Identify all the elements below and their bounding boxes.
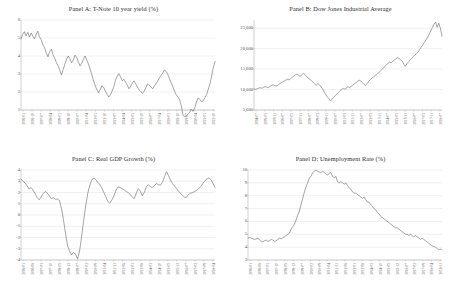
panel-b-plot-area — [254, 20, 442, 110]
x-tick-label: 2007-07 — [41, 113, 45, 125]
panel-b-y-axis-labels: 25,00020,00015,00010,0005,000 — [227, 20, 253, 110]
x-tick-label: 2006-01 — [23, 113, 27, 125]
x-tick-label: 2013-01 — [354, 263, 358, 275]
x-tick-label: 2006-07 — [282, 113, 286, 125]
x-tick-label: 2015-01 — [132, 113, 136, 125]
x-tick-label: 2006-01 — [250, 263, 254, 275]
panel-a-plot-area — [21, 20, 215, 110]
panel-c-plot-area — [21, 170, 215, 260]
x-tick-label: 2013-11 — [379, 113, 383, 125]
x-tick-label: 2009-07 — [302, 263, 306, 275]
four-panel-figure: Panel A: T-Note 10 year yield (%) 654321… — [0, 0, 454, 300]
x-tick-label: 2010-09 — [319, 263, 323, 275]
x-tick-label: 2014-10 — [159, 263, 163, 275]
series-line-0 — [21, 172, 215, 259]
x-tick-label: 2012-01 — [95, 113, 99, 125]
x-tick-label: 2014-07 — [387, 113, 391, 125]
x-tick-label: 2009-01 — [59, 113, 63, 125]
x-tick-label: 2007-10 — [276, 263, 280, 275]
panel-a-chart — [21, 20, 215, 110]
x-tick-label: 2017-11 — [431, 113, 435, 125]
y-tick-label: 10,000 — [240, 87, 253, 92]
x-tick-label: 2007-10 — [50, 263, 54, 275]
x-tick-label: 2011-04 — [328, 263, 332, 275]
panel-c-y-axis-labels: 43210-1-2-3-4 — [0, 170, 20, 260]
x-tick-label: 2018-10 — [177, 113, 181, 125]
x-tick-label: 2007-11 — [300, 113, 304, 125]
panel-d-x-axis-labels: 2006-012006-082007-032007-102008-052008-… — [248, 262, 442, 296]
panel-c: Panel C: Real GDP Growth (%) 43210-1-2-3… — [0, 150, 227, 300]
x-tick-label: 2010-02 — [311, 263, 315, 275]
x-tick-label: 2009-03 — [317, 113, 321, 125]
x-tick-label: 2018-04 — [213, 263, 217, 275]
x-tick-label: 2008-12 — [293, 263, 297, 275]
x-tick-label: 2006-08 — [32, 263, 36, 275]
panel-a: Panel A: T-Note 10 year yield (%) 654321… — [0, 0, 227, 150]
x-tick-label: 2014-03 — [371, 263, 375, 275]
series-line-0 — [248, 170, 442, 250]
x-tick-label: 2016-07 — [186, 263, 190, 275]
x-tick-label: 2019-07 — [186, 113, 190, 125]
x-tick-label: 2008-12 — [68, 263, 72, 275]
x-tick-label: 2011-04 — [86, 113, 90, 125]
x-tick-label: 2007-03 — [41, 263, 45, 275]
x-tick-label: 2021-01 — [204, 113, 208, 125]
x-tick-label: 2018-07 — [440, 113, 444, 125]
y-tick-label: 20,000 — [240, 46, 253, 51]
x-tick-label: 2011-04 — [104, 263, 108, 275]
x-tick-label: 2015-05 — [388, 263, 392, 275]
panel-c-chart — [21, 170, 215, 260]
panel-b-chart — [254, 20, 442, 110]
y-tick-label: 25,000 — [240, 26, 253, 31]
panel-d-title: Panel D: Unemployment Rate (%) — [227, 155, 454, 162]
x-tick-label: 2004-07 — [256, 113, 260, 125]
x-tick-label: 2021-10 — [213, 113, 217, 125]
x-tick-label: 2013-01 — [132, 263, 136, 275]
x-tick-label: 2010-07 — [77, 113, 81, 125]
x-tick-label: 2014-03 — [150, 263, 154, 275]
series-line-0 — [254, 22, 442, 101]
x-tick-label: 2016-07 — [406, 263, 410, 275]
x-tick-label: 2006-08 — [259, 263, 263, 275]
x-tick-label: 2011-11 — [336, 263, 340, 274]
x-tick-label: 2006-01 — [23, 263, 27, 275]
y-tick-label: -3 — [16, 247, 20, 252]
panel-c-title: Panel C: Real GDP Growth (%) — [0, 155, 227, 162]
y-tick-label: 5,000 — [243, 108, 253, 113]
x-tick-label: 2015-10 — [141, 113, 145, 125]
x-tick-label: 2015-12 — [177, 263, 181, 275]
x-tick-label: 2017-02 — [414, 263, 418, 275]
x-tick-label: 2010-07 — [335, 113, 339, 125]
x-tick-label: 2016-07 — [150, 113, 154, 125]
x-tick-label: 2020-04 — [195, 113, 199, 125]
y-tick-label: -2 — [16, 235, 20, 240]
x-tick-label: 2014-04 — [123, 113, 127, 125]
x-tick-label: 2015-12 — [397, 263, 401, 275]
panel-d: Panel D: Unemployment Rate (%) 109876543… — [227, 150, 454, 300]
x-tick-label: 2015-03 — [396, 113, 400, 125]
x-tick-label: 2012-07 — [361, 113, 365, 125]
x-tick-label: 2017-02 — [195, 263, 199, 275]
x-tick-label: 2012-06 — [345, 263, 349, 275]
x-tick-label: 2008-05 — [59, 263, 63, 275]
x-tick-label: 2014-10 — [380, 263, 384, 275]
x-tick-label: 2008-07 — [309, 113, 313, 125]
panel-b-x-axis-labels: 2004-072005-032005-112006-072007-032007-… — [254, 112, 442, 146]
panel-d-plot-area — [248, 170, 442, 260]
y-tick-label: 10 — [242, 168, 247, 173]
y-tick-label: -1 — [16, 224, 20, 229]
x-tick-label: 2013-08 — [141, 263, 145, 275]
x-tick-label: 2016-07 — [414, 113, 418, 125]
x-tick-label: 2017-09 — [423, 263, 427, 275]
x-tick-label: 2013-07 — [114, 113, 118, 125]
x-tick-label: 2018-04 — [431, 263, 435, 275]
x-tick-label: 2015-11 — [405, 113, 409, 125]
x-tick-label: 2007-03 — [291, 113, 295, 125]
x-tick-label: 2018-11 — [440, 263, 444, 275]
x-tick-label: 2005-03 — [265, 113, 269, 125]
x-tick-label: 2010-02 — [86, 263, 90, 275]
panel-a-y-axis-labels: 654321 — [0, 20, 20, 110]
x-tick-label: 2013-03 — [370, 113, 374, 125]
x-tick-label: 2008-04 — [50, 113, 54, 125]
panel-d-chart — [248, 170, 442, 260]
